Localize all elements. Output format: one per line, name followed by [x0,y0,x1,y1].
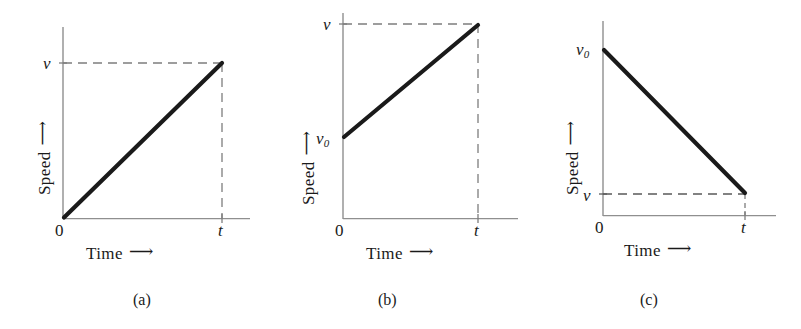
speed-time-figure: v 0 t Speed⟶ Time⟶ (a) [0,0,801,329]
origin-label-b: 0 [335,222,344,239]
caption-c: (c) [640,292,658,308]
y-tick-label-c-v0: v0 [576,41,589,60]
y-axis-title-c: Speed⟶ [562,121,581,195]
x-axis-arrow-icon: ⟶ [409,243,434,260]
caption-b: (b) [378,292,397,308]
subscript-zero: 0 [584,48,590,60]
y-axis-title-a: Speed⟶ [34,121,53,195]
origin-label-c: 0 [595,219,604,236]
data-line [344,25,478,137]
x-axis-title-b: Time⟶ [366,243,434,262]
x-axis-title-c: Time⟶ [624,240,692,259]
x-axis-title-a: Time⟶ [86,243,154,262]
origin-label-a: 0 [55,222,64,239]
y-axis-arrow-icon: ⟶ [298,131,315,156]
data-line [64,63,222,218]
x-axis-arrow-icon: ⟶ [667,240,692,257]
y-tick-label-b-v0: v0 [316,130,329,149]
x-tick-label-c: t [741,219,746,236]
panel-a: v 0 t Speed⟶ Time⟶ (a) [0,0,268,329]
data-line [604,50,745,193]
y-tick-label-b-v: v [323,16,331,33]
x-tick-label-b: t [474,222,479,239]
y-tick-label-c-v: v [583,187,591,204]
y-axis-title-b: Speed⟶ [298,131,317,205]
y-axis-arrow-icon: ⟶ [34,121,51,146]
panel-b: v v0 0 t Speed⟶ Time⟶ (b) [268,0,536,329]
subscript-zero: 0 [324,137,330,149]
x-axis-arrow-icon: ⟶ [129,243,154,260]
caption-a: (a) [133,292,151,308]
x-tick-label-a: t [218,222,223,239]
y-axis-arrow-icon: ⟶ [562,121,579,146]
y-tick-label-a: v [43,55,51,72]
panel-c: v0 v 0 t Speed⟶ Time⟶ (c) [536,0,801,329]
